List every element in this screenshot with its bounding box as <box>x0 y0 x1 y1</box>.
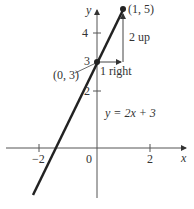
rise-label: 2 up <box>129 31 150 43</box>
x-tick-label-2: 2 <box>147 153 153 165</box>
point-intercept-label: (0, 3) <box>53 69 79 81</box>
point-top <box>120 6 126 12</box>
y-tick-label-4: 4 <box>82 27 88 39</box>
y-tick-label-2: 2 <box>84 85 90 97</box>
line-graph <box>0 0 194 209</box>
run-label: 1 right <box>100 65 132 77</box>
x-tick-label-neg2: −2 <box>32 153 45 165</box>
x-tick-label-0: 0 <box>86 153 92 165</box>
y-axis-label: y <box>86 4 91 16</box>
y-tick-label-3: 3 <box>84 55 90 67</box>
point-top-label: (1, 5) <box>128 3 154 15</box>
x-axis-label: x <box>181 152 186 164</box>
equation-label: y = 2x + 3 <box>105 107 156 119</box>
graph-line <box>33 10 123 195</box>
